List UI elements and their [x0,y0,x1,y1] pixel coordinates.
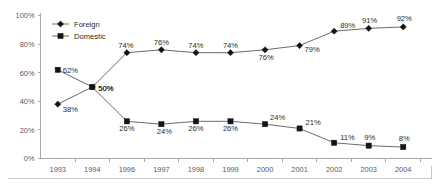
marker-foreign-2002 [331,28,337,34]
y-axis-tick-label: 40% [20,97,35,106]
marker-foreign-1997 [158,47,164,53]
marker-foreign-2003 [366,25,372,31]
x-axis-tick-label: 1999 [222,165,238,174]
chart-canvas: 100%80%60%40%20%0% 199319941996199719981… [0,0,437,184]
data-label-domestic-2004: 8% [399,134,410,143]
data-label-foreign-1997: 76% [154,38,169,47]
data-label-domestic-2002: 11% [340,133,355,142]
y-axis-tick-label: 0% [24,154,35,163]
marker-foreign-2001 [296,42,302,48]
data-label-foreign-2002: 89% [340,21,355,30]
data-label-domestic-1993: 62% [63,66,78,75]
data-label-foreign-1999: 74% [223,41,238,50]
data-label-domestic-1998: 26% [188,124,203,133]
x-axis-tick-labels: 1993199419961997199819992000200120022003… [50,165,412,174]
data-label-foreign-1993: 38% [63,105,78,114]
marker-domestic-1993 [55,67,60,72]
data-label-domestic-1997: 24% [157,127,172,136]
marker-foreign-1999 [227,50,233,56]
data-label-domestic-2001: 21% [306,118,321,127]
data-label-domestic-2000: 24% [270,113,285,122]
chart-legend[interactable]: ForeignDomestic [52,20,106,41]
x-axis-tick-label: 1996 [119,165,135,174]
data-label-domestic-2003: 9% [364,133,375,142]
data-label-domestic-1996: 26% [119,124,134,133]
y-axis-tick-labels: 100%80%60%40%20%0% [16,11,35,163]
data-label-domestic-1999: 26% [223,124,238,133]
marker-domestic-2002 [332,140,337,145]
x-axis-tick-label: 1997 [153,165,169,174]
marker-foreign-1998 [193,50,199,56]
data-label-foreign-2004: 92% [397,14,412,23]
marker-foreign-1993 [55,101,61,107]
data-label-foreign-2000: 76% [258,53,273,62]
y-axis-tick-label: 60% [20,69,35,78]
legend-item-foreign[interactable]: Foreign [52,20,100,29]
x-axis-tick-label: 2001 [291,165,307,174]
legend-marker-diamond-icon [57,21,63,27]
marker-domestic-2001 [297,126,302,131]
x-axis-tick-label: 2003 [360,165,376,174]
data-label-foreign-1998: 74% [188,41,203,50]
legend-label: Foreign [74,20,100,29]
marker-domestic-2004 [401,144,406,149]
y-axis-tick-label: 20% [20,126,35,135]
line-chart-figure: 100%80%60%40%20%0% 199319941996199719981… [0,0,437,184]
data-label-foreign-1996: 74% [118,41,133,50]
data-label-crossover-1994: 50% [98,84,113,93]
x-axis-tick-label: 2002 [326,165,342,174]
marker-domestic-1996 [124,119,129,124]
x-axis-tick-label: 1994 [84,165,100,174]
marker-domestic-2003 [366,143,371,148]
marker-domestic-1997 [159,122,164,127]
legend-marker-square-icon [58,33,63,38]
marker-domestic-1998 [193,119,198,124]
legend-item-domestic[interactable]: Domestic [52,32,106,41]
y-axis-tick-label: 80% [20,40,35,49]
x-axis-tick-label: 2004 [395,165,411,174]
x-axis-tick-label: 2000 [257,165,273,174]
x-axis-tick-label: 1998 [188,165,204,174]
data-label-foreign-2001: 79% [305,45,320,54]
legend-label: Domestic [74,32,106,41]
marker-domestic-2000 [262,122,267,127]
marker-foreign-2004 [400,24,406,30]
marker-domestic-1994 [90,84,95,89]
data-point-labels: 38%50%74%76%74%74%76%79%89%91%92%62%26%2… [63,14,412,143]
y-axis-tick-label: 100% [16,11,35,20]
data-label-foreign-2003: 91% [362,16,377,25]
marker-domestic-1999 [228,119,233,124]
x-axis-tick-label: 1993 [50,165,66,174]
